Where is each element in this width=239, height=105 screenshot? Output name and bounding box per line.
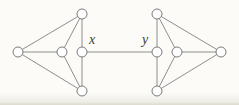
node-right-top	[152, 9, 162, 19]
vertex-label-y: y	[140, 32, 149, 47]
node-right-center	[172, 47, 182, 57]
node-right-bottom	[152, 86, 162, 96]
node-left-bottom	[77, 86, 87, 96]
graph-figure: xy	[0, 0, 239, 105]
graph-canvas: xy	[0, 0, 239, 105]
node-y	[152, 47, 162, 57]
node-left-top	[77, 9, 87, 19]
node-left-outer	[13, 47, 23, 57]
node-x	[77, 47, 87, 57]
node-right-outer	[216, 47, 226, 57]
node-left-center	[57, 47, 67, 57]
vertex-label-x: x	[88, 32, 96, 47]
